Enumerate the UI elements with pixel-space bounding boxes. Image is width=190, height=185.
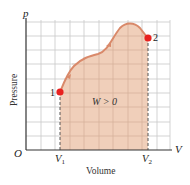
point-2 — [144, 34, 151, 41]
x-axis-symbol: V — [175, 143, 183, 155]
point-2-label: 2 — [153, 32, 158, 43]
v1-label: V1 — [55, 153, 65, 166]
x-axis-title: Volume — [86, 166, 115, 176]
work-area — [60, 24, 148, 151]
y-axis-symbol: p — [22, 7, 29, 19]
origin-label: O — [14, 147, 22, 159]
pv-diagram: p V O 1 2 W > 0 V1 V2 Volume Pressure — [0, 0, 190, 185]
point-1 — [56, 88, 63, 95]
point-1-label: 1 — [50, 87, 55, 98]
work-label: W > 0 — [92, 96, 117, 107]
v2-label: V2 — [142, 153, 152, 166]
y-axis-title: Pressure — [9, 74, 19, 106]
